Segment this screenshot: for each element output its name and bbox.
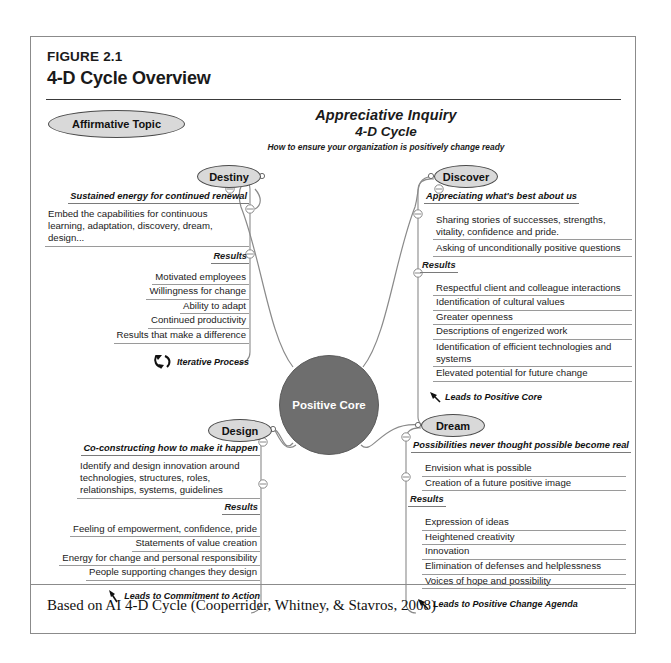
branch-node-design[interactable]: Design [208,419,272,442]
discover-result-item: Identification of cultural values [433,296,632,311]
branch-node-dream-label: Dream [436,420,470,432]
arrow-up-left-icon [428,390,442,404]
discover-headline: Appreciating what's best about us [424,190,579,204]
caption-divider [31,584,635,585]
discover-result-item: Greater openness [433,311,632,326]
destiny-paragraph: Embed the capabilities for continuous le… [45,207,249,247]
positive-core-node[interactable]: Positive Core [279,355,379,455]
destiny-result-item: Continued productivity [148,314,249,329]
branch-node-destiny[interactable]: Destiny [197,165,261,188]
branch-dream: Possibilities never thought possible bec… [408,439,626,611]
branch-destiny: Sustained energy for continued renewal E… [45,190,249,372]
dream-result-item: Heightened creativity [422,531,626,546]
branch-node-discover[interactable]: Discover [434,165,498,188]
discover-result-item: Elevated potential for future change [433,367,632,382]
figure-caption: Based on AI 4-D Cycle (Cooperrider, Whit… [47,597,436,614]
destiny-lead-label: Iterative Process [177,357,249,367]
destiny-result-item: Willingness for change [146,285,249,300]
design-result-item: Energy for change and personal responsib… [59,552,260,567]
dream-item: Creation of a future positive image [422,477,626,492]
design-result-item: People supporting changes they design [86,566,260,581]
dream-lead-label: Leads to Positive Change Agenda [433,599,578,609]
design-result-item: Feeling of empowerment, confidence, prid… [70,523,260,538]
dream-result-item: Expression of ideas [422,516,626,531]
design-result-item: Statements of value creation [132,537,260,552]
positive-core-label: Positive Core [292,399,366,411]
discover-result-item: Respectful client and colleague interact… [433,282,632,297]
discover-results-label: Results [420,259,458,273]
branch-node-discover-label: Discover [443,171,489,183]
iterative-cycle-icon [152,352,174,372]
discover-result-item: Descriptions of engerized work [433,325,632,340]
branch-design: Co-constructing how to make it happen Id… [39,442,260,603]
dream-item: Envision what is possible [422,462,626,477]
dream-result-item: Voices of hope and possibility [422,575,626,590]
branch-node-dream[interactable]: Dream [421,414,485,437]
dream-headline: Possibilities never thought possible bec… [411,439,631,453]
destiny-result-item: Motivated employees [152,271,249,286]
discover-item: Asking of unconditionally positive quest… [433,241,632,256]
discover-item: Sharing stories of successes, strengths,… [433,213,632,240]
branch-node-destiny-label: Destiny [209,171,249,183]
destiny-results-label: Results [211,250,249,264]
design-paragraph: Identify and design innovation around te… [77,459,260,499]
branch-node-design-label: Design [222,425,259,437]
discover-result-item: Identification of efficient technologies… [433,340,632,367]
destiny-headline: Sustained energy for continued renewal [68,190,249,204]
design-results-label: Results [222,501,260,515]
destiny-result-item: Ability to adapt [180,300,249,315]
discover-lead-label: Leads to Positive Core [445,392,542,402]
dream-result-item: Innovation [422,545,626,560]
figure-frame: FIGURE 2.1 4-D Cycle Overview Affirmativ… [30,36,636,634]
branch-discover: Appreciating what's best about us Sharin… [420,190,632,404]
dream-results-label: Results [408,493,446,507]
dream-result-item: Elimination of defenses and helplessness [422,560,626,575]
design-headline: Co-constructing how to make it happen [81,442,260,456]
destiny-result-item: Results that make a difference [114,329,249,344]
